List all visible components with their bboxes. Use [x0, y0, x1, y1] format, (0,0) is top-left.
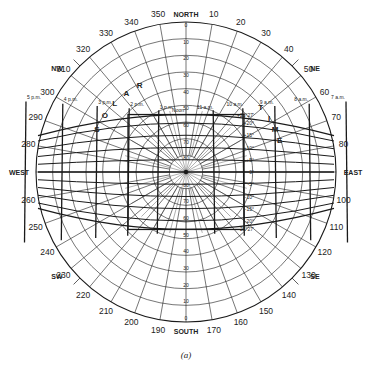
azimuth-label: 290 — [29, 112, 43, 122]
declination-label: +20° — [244, 120, 254, 126]
figure-caption: (a) — [181, 350, 192, 360]
altitude-label: 50 — [183, 232, 189, 238]
azimuth-label: 170 — [207, 325, 221, 335]
altitude-label: 30 — [183, 72, 189, 78]
hour-label: 11 a.m. — [197, 104, 213, 110]
declination-label: -15° — [245, 206, 254, 212]
altitude-label: 80 — [183, 182, 189, 188]
solar-time-letter: I — [268, 114, 270, 123]
azimuth-label: 260 — [21, 195, 35, 205]
azimuth-label: 280 — [21, 139, 35, 149]
azimuth-label: 320 — [76, 44, 90, 54]
azimuth-line — [135, 31, 181, 156]
hour-label: 8 a.m. — [294, 96, 308, 102]
altitude-label: 20 — [183, 282, 189, 288]
azimuth-label: 300 — [40, 87, 54, 97]
azimuth-label: 10 — [209, 9, 219, 19]
azimuth-label: 150 — [259, 306, 273, 316]
azimuth-line — [197, 185, 283, 287]
compass-se: SE — [310, 273, 320, 280]
declination-label: +15° — [244, 132, 254, 138]
altitude-label: 80 — [183, 155, 189, 161]
declination-label: -20° — [245, 218, 254, 224]
solar-time-letter: L — [112, 99, 117, 108]
altitude-label: 30 — [183, 265, 189, 271]
solar-time-letter: A — [124, 89, 130, 98]
compass-ne: NE — [310, 65, 320, 72]
altitude-label: 0 — [185, 22, 188, 28]
azimuth-label: 100 — [336, 195, 350, 205]
sun-path-diagram: 1020304050607080100110120130140150160170… — [0, 0, 368, 372]
hour-label: 3 p.m. — [98, 99, 112, 105]
hour-line — [213, 110, 215, 233]
declination-label: +5° — [246, 157, 254, 163]
altitude-label: 50 — [183, 105, 189, 111]
intercardinal-tick — [74, 60, 80, 66]
compass-north: NORTH — [174, 11, 199, 18]
azimuth-line — [45, 121, 170, 167]
azimuth-label: 350 — [151, 9, 165, 19]
altitude-label: 60 — [183, 122, 189, 128]
declination-label: -10° — [245, 194, 254, 200]
altitude-label: 10 — [183, 39, 189, 45]
azimuth-label: 330 — [99, 28, 113, 38]
azimuth-label: 30 — [261, 28, 271, 38]
solar-time-letter: R — [137, 81, 143, 90]
azimuth-label: 190 — [151, 325, 165, 335]
altitude-label: 10 — [183, 298, 189, 304]
compass-east: EAST — [344, 169, 363, 176]
hour-label: 9 a.m. — [260, 99, 274, 105]
altitude-label: 40 — [183, 248, 189, 254]
compass-sw: SW — [51, 273, 63, 280]
hour-label: Noon — [172, 107, 184, 113]
azimuth-label: 70 — [332, 112, 342, 122]
azimuth-label: 60 — [320, 87, 330, 97]
hour-label: 4 p.m. — [64, 96, 78, 102]
azimuth-line — [192, 31, 238, 156]
hour-label: 2 p.m. — [130, 101, 144, 107]
intercardinal-tick — [292, 60, 298, 66]
solar-time-letter: M — [272, 125, 279, 134]
solar-time-letter: S — [94, 125, 100, 134]
azimuth-line — [45, 178, 170, 224]
declination-label: 0° — [249, 169, 254, 175]
azimuth-label: 240 — [40, 247, 54, 257]
altitude-label: 0 — [185, 315, 188, 321]
intercardinal-tick — [74, 278, 80, 284]
intercardinal-tick — [292, 278, 298, 284]
azimuth-line — [202, 175, 333, 198]
azimuth-label: 80 — [339, 139, 349, 149]
azimuth-line — [202, 178, 327, 224]
solar-time-letter: O — [102, 111, 108, 120]
solar-time-letter: E — [277, 136, 283, 145]
azimuth-label: 200 — [124, 317, 138, 327]
hour-label: 7 a.m. — [331, 94, 345, 100]
azimuth-line — [202, 146, 333, 169]
azimuth-label: 140 — [282, 290, 296, 300]
azimuth-label: 20 — [236, 17, 246, 27]
azimuth-label: 160 — [234, 317, 248, 327]
altitude-label: 40 — [183, 89, 189, 95]
altitude-label: 70 — [183, 139, 189, 145]
azimuth-label: 340 — [124, 17, 138, 27]
declination-label: -23°27' — [238, 226, 254, 232]
declination-label: -5° — [248, 181, 254, 187]
azimuth-line — [202, 121, 327, 167]
compass-south: SOUTH — [174, 328, 199, 335]
declination-label: +10° — [244, 145, 254, 151]
azimuth-label: 40 — [284, 44, 294, 54]
azimuth-line — [90, 185, 176, 287]
altitude-label: 70 — [183, 198, 189, 204]
azimuth-line — [38, 175, 169, 198]
azimuth-label: 210 — [99, 306, 113, 316]
hour-label: 10 a.m. — [226, 101, 243, 107]
altitude-label: 20 — [183, 55, 189, 61]
azimuth-label: 220 — [76, 290, 90, 300]
compass-nw: NW — [51, 65, 63, 72]
declination-label: +23°27' — [237, 112, 254, 118]
azimuth-label: 250 — [29, 222, 43, 232]
hour-line — [157, 110, 159, 233]
azimuth-label: 120 — [317, 247, 331, 257]
compass-west: WEST — [9, 169, 30, 176]
hour-label: 5 p.m. — [27, 94, 41, 100]
